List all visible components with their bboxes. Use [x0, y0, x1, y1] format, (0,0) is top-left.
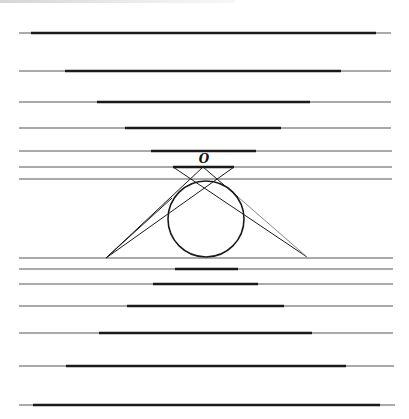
ray-o-right [203, 167, 238, 197]
ray-construction [106, 167, 307, 258]
tangent-left [106, 198, 172, 258]
point-o-label: O [199, 152, 210, 166]
ray-left-end-to-bottom-right [173, 167, 307, 257]
ray-right-end-to-bottom-left [106, 167, 234, 258]
optics-diagram: O [0, 0, 409, 419]
horizontal-lines [19, 33, 395, 405]
tangent-right [238, 197, 307, 257]
